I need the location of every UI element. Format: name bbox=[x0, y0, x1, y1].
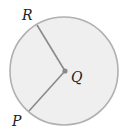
label-r: R bbox=[21, 7, 33, 23]
label-q: Q bbox=[71, 69, 83, 85]
circle-diagram: R Q P bbox=[0, 0, 123, 134]
label-p: P bbox=[11, 113, 22, 129]
center-point bbox=[62, 68, 67, 73]
